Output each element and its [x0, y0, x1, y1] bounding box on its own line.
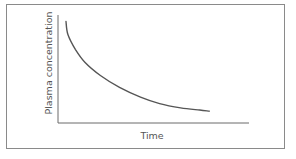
y-axis-label: Plasma concentration — [43, 11, 54, 114]
x-axis-label: Time — [140, 130, 163, 141]
concentration-curve — [66, 22, 209, 112]
